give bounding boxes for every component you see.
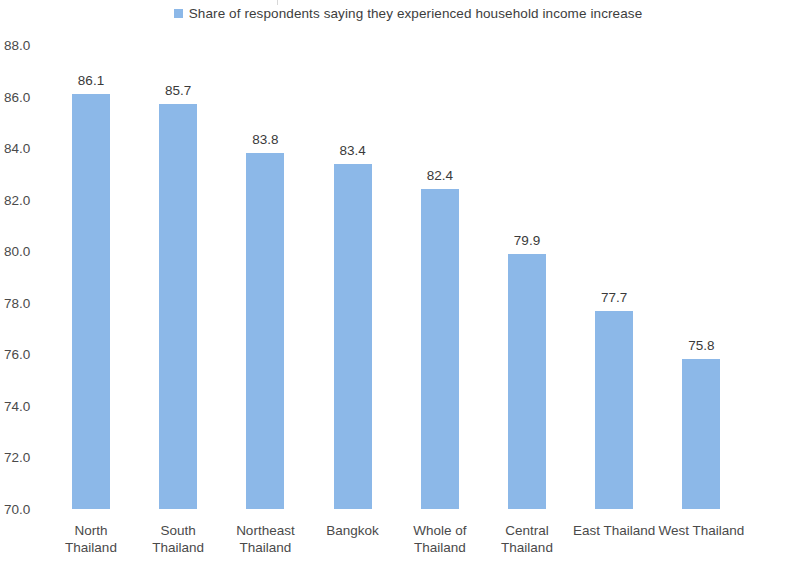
- x-axis-category-label: SouthThailand: [152, 522, 204, 556]
- bar[interactable]: [682, 359, 720, 509]
- x-axis-category-line: Bangkok: [326, 522, 379, 539]
- x-axis-category-line: South: [152, 522, 204, 539]
- y-axis-tick-label: 82.0: [4, 192, 52, 207]
- y-axis-tick-label: 88.0: [4, 38, 52, 53]
- bar[interactable]: [159, 104, 197, 509]
- x-axis-category-label: CentralThailand: [501, 522, 553, 556]
- bar[interactable]: [421, 189, 459, 509]
- bar-value-label: 83.8: [252, 132, 278, 147]
- bar[interactable]: [246, 153, 284, 509]
- x-axis-category-line: East Thailand: [573, 522, 655, 539]
- bar-chart: Share of respondents saying they experie…: [0, 0, 796, 561]
- y-axis-tick-label: 78.0: [4, 295, 52, 310]
- x-axis-category-line: Thailand: [413, 539, 466, 556]
- x-axis-category-line: Central: [501, 522, 553, 539]
- bar-value-label: 79.9: [514, 233, 540, 248]
- bar[interactable]: [72, 94, 110, 509]
- bar[interactable]: [595, 311, 633, 509]
- y-axis-tick-label: 84.0: [4, 141, 52, 156]
- x-axis-category-line: North: [65, 522, 117, 539]
- x-axis-category-line: Thailand: [236, 539, 295, 556]
- x-axis-category-line: Whole of: [413, 522, 466, 539]
- bar-value-label: 77.7: [601, 290, 627, 305]
- y-axis-tick-label: 86.0: [4, 89, 52, 104]
- bar-value-label: 75.8: [688, 338, 714, 353]
- x-axis-category-label: NorthThailand: [65, 522, 117, 556]
- bar-value-label: 85.7: [165, 83, 191, 98]
- x-axis-category-line: West Thailand: [658, 522, 744, 539]
- bar-value-label: 82.4: [427, 168, 453, 183]
- plot-area: 88.086.084.082.080.078.076.074.072.070.0…: [0, 0, 796, 561]
- x-axis-category-label: West Thailand: [658, 522, 744, 539]
- x-axis-category-line: Thailand: [152, 539, 204, 556]
- bar[interactable]: [508, 254, 546, 509]
- bar-value-label: 86.1: [78, 73, 104, 88]
- x-axis-category-label: NortheastThailand: [236, 522, 295, 556]
- bar-value-label: 83.4: [339, 143, 365, 158]
- y-axis-tick-label: 72.0: [4, 450, 52, 465]
- x-axis-category-line: Thailand: [65, 539, 117, 556]
- x-axis-category-line: Thailand: [501, 539, 553, 556]
- x-axis-category-label: Bangkok: [326, 522, 379, 539]
- bar[interactable]: [334, 164, 372, 509]
- y-axis-tick-label: 74.0: [4, 398, 52, 413]
- y-axis-tick-label: 76.0: [4, 347, 52, 362]
- x-axis-category-label: East Thailand: [573, 522, 655, 539]
- x-axis-category-label: Whole ofThailand: [413, 522, 466, 556]
- y-axis-tick-label: 70.0: [4, 502, 52, 517]
- y-axis-tick-label: 80.0: [4, 244, 52, 259]
- x-axis-category-line: Northeast: [236, 522, 295, 539]
